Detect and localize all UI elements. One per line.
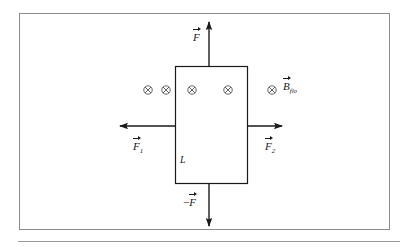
field-into-page-symbols	[144, 86, 276, 94]
label-force-left: F1	[133, 141, 143, 155]
field-into-page-icon	[188, 86, 196, 94]
field-into-page-icon	[144, 86, 152, 94]
label-force-right: F2	[265, 141, 275, 155]
label-force-right-text: F	[265, 140, 272, 152]
label-magnetic-field-text: B	[283, 80, 290, 92]
diagram-canvas	[0, 0, 409, 247]
label-force-down: −F	[183, 197, 196, 208]
field-into-page-icon	[162, 86, 170, 94]
label-force-up: F	[193, 32, 200, 43]
current-loop-rectangle	[176, 67, 248, 184]
label-loop-length: L	[180, 155, 186, 165]
figure-page: F F1 F2 −F L Bflo	[0, 0, 409, 247]
label-magnetic-field-subscript: flo	[290, 87, 297, 94]
label-force-down-text: F	[189, 196, 196, 208]
label-force-right-subscript: 2	[272, 147, 275, 154]
bottom-horizontal-rule	[18, 241, 400, 242]
field-into-page-icon	[268, 86, 276, 94]
label-force-left-subscript: 1	[140, 147, 143, 154]
label-force-up-text: F	[193, 31, 200, 43]
label-magnetic-field: Bflo	[283, 81, 297, 95]
field-into-page-icon	[224, 86, 232, 94]
label-force-left-text: F	[133, 140, 140, 152]
